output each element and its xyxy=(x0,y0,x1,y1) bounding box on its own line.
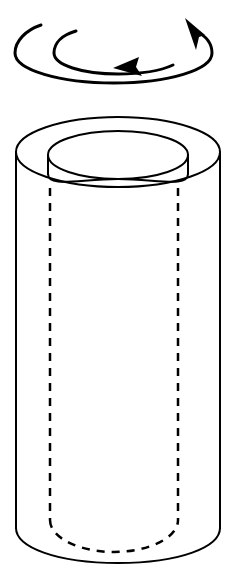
diagram-root: Rotating hollow cylinder Line drawing of… xyxy=(0,0,235,586)
cylinder-body-fill xyxy=(16,117,220,563)
rotating-cylinder-figure: Rotating hollow cylinder Line drawing of… xyxy=(0,0,235,586)
hollow-cylinder xyxy=(16,117,220,563)
